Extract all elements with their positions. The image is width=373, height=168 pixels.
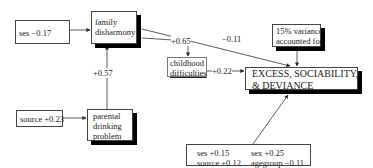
ses-label: ses −0.17 [19,28,51,38]
parental-drinking-node: parental drinking problem [87,109,133,141]
edge-label-family-outcome: −0.11 [222,34,241,44]
childhood-line-2: difficulties [170,68,204,78]
ses-input-node: ses −0.17 [15,20,70,44]
childhood-difficulties-node: childhood difficulties [167,57,207,77]
edge-label-family-childhood: +0.65 [171,36,191,46]
parental-line-1: parental [93,111,127,121]
variance-line-1: 15% variance [276,26,317,36]
covariate-ses: ses +0.15 [197,148,241,158]
family-disharmony-line-1: family [95,17,133,27]
edge-label-childhood-outcome: +0.22 [212,66,232,76]
source-input-node: source +0.23 [16,110,63,127]
family-disharmony-line-2: disharmony [95,27,133,37]
family-disharmony-node: family disharmony [91,11,137,44]
covariate-sex: sex +0.25 [251,148,304,158]
childhood-line-1: childhood [170,58,204,68]
outcome-line-2: & DEVIANCE [252,80,351,92]
source-label: source +0.23 [20,114,64,124]
covariate-source: source +0.12 [197,158,241,168]
edge-label-parental-family: +0.57 [93,68,113,78]
parental-line-3: problem [93,131,127,141]
covariates-node: ses +0.15 source +0.12 sex +0.25 agegrou… [186,144,311,166]
variance-explained-node: 15% variance accounted for [272,24,321,47]
covariate-agegroup: agegroup −0.11 [251,158,304,168]
outcome-line-1: EXCESS, SOCIABILITY, [252,68,351,80]
parental-line-2: drinking [93,121,127,131]
outcome-node: EXCESS, SOCIABILITY, & DEVIANCE [245,67,358,90]
variance-line-2: accounted for [276,36,317,46]
